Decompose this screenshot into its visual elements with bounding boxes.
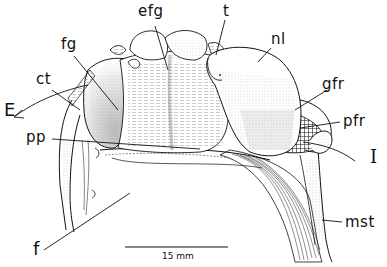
label-nl: nl (271, 32, 286, 47)
label-efg: efg (138, 4, 164, 19)
label-pfr: pfr (343, 114, 365, 129)
label-t: t (223, 4, 229, 19)
label-E: E (4, 101, 16, 119)
label-pp: pp (26, 130, 46, 145)
label-f: f (33, 240, 40, 258)
label-gfr: gfr (322, 77, 344, 92)
mesentery-mst (220, 150, 332, 262)
label-ct: ct (36, 72, 51, 87)
scale-bar-label: 15 mm (162, 251, 194, 261)
label-mst: mst (345, 215, 375, 230)
anatomical-figure (0, 0, 387, 267)
label-I: I (370, 148, 378, 166)
label-fg: fg (61, 37, 77, 52)
